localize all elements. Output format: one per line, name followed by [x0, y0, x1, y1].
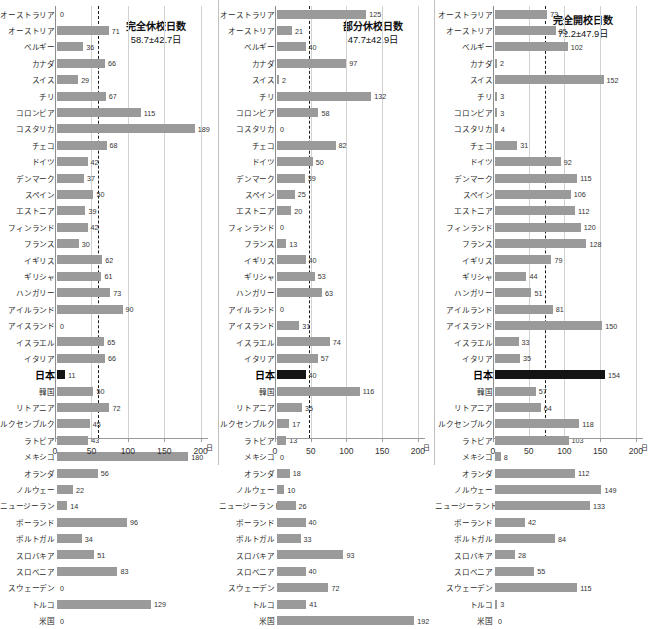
bar-track: 97 [277, 55, 434, 71]
bar-value-label: 34 [85, 535, 93, 544]
bar-track: 74 [277, 334, 434, 350]
bar-track: 58 [277, 104, 434, 120]
table-row: スロバキア93 [219, 547, 434, 563]
category-label: スペイン [435, 189, 495, 200]
bar-value-label: 58 [321, 109, 329, 118]
category-label: 韓国 [0, 386, 57, 397]
table-row: デンマーク115 [435, 170, 654, 186]
table-row: ベルギー40 [219, 39, 434, 55]
bar [57, 272, 101, 281]
bar-track: 92 [495, 154, 654, 170]
bar-value-label: 0 [280, 223, 284, 232]
bar-value-label: 97 [349, 59, 357, 68]
bar-value-label: 37 [87, 174, 95, 183]
category-label: オーストリア [0, 25, 57, 36]
bar-value-label: 72 [112, 404, 120, 413]
bar-value-label: 0 [280, 305, 284, 314]
x-axis-3: 050100150200日 [493, 438, 643, 465]
category-label: チェコ [0, 140, 57, 151]
panel-partial-closure: 部分休校日数 47.7±42.9日 オーストラリア125オーストリア21ベルギー… [218, 0, 434, 465]
table-row: イスラエル65 [0, 334, 218, 350]
bar-value-label: 150 [605, 322, 617, 331]
category-label: メキシコ [0, 451, 57, 462]
bar [277, 354, 318, 363]
category-label: カナダ [435, 58, 495, 69]
bar [277, 616, 414, 625]
category-label: オランダ [0, 468, 57, 479]
bar-track: 115 [495, 170, 654, 186]
bar-track: 106 [495, 186, 654, 202]
table-row: ハンガリー73 [0, 285, 218, 301]
bar-value-label: 14 [70, 502, 78, 511]
bar-value-label: 57 [539, 387, 547, 396]
x-tick-mark [418, 438, 419, 442]
table-row: イギリス62 [0, 252, 218, 268]
category-label: オーストリア [435, 25, 495, 36]
bar-value-label: 53 [318, 272, 326, 281]
table-row: 韓国57 [435, 383, 654, 399]
category-label: チリ [435, 91, 495, 102]
table-row: ルクセンブルク17 [219, 416, 434, 432]
table-row: 韓国116 [219, 383, 434, 399]
bar-track: 44 [495, 268, 654, 284]
table-row: ドイツ50 [219, 154, 434, 170]
bar-track: 33 [495, 334, 654, 350]
table-row: オランダ18 [219, 465, 434, 481]
bar-track: 62 [57, 252, 218, 268]
table-row: ベルギー102 [435, 39, 654, 55]
bar [277, 157, 313, 166]
category-label: スイス [0, 74, 57, 85]
category-label: エストニア [0, 205, 57, 216]
bar-track: 150 [495, 317, 654, 333]
bar [495, 600, 497, 609]
bar [495, 370, 605, 379]
table-row: イギリス40 [219, 252, 434, 268]
bar [495, 321, 602, 330]
bar [495, 288, 531, 297]
category-label: ドイツ [0, 156, 57, 167]
bar-value-label: 61 [104, 272, 112, 281]
bar [277, 10, 366, 19]
bar-track: 102 [495, 39, 654, 55]
category-label: 韓国 [219, 386, 277, 397]
category-label: トルコ [219, 599, 277, 610]
bar-track: 40 [277, 514, 434, 530]
table-row: エストニア39 [0, 203, 218, 219]
table-row: トルコ41 [219, 596, 434, 612]
table-row: スロベニア55 [435, 563, 654, 579]
bar-value-label: 106 [574, 190, 586, 199]
category-label: スイス [219, 74, 277, 85]
bar [57, 354, 105, 363]
table-row: アイルランド90 [0, 301, 218, 317]
bar-value-label: 125 [369, 10, 381, 19]
panel-full-open: 完全開校日数 72.2±47.9日 オーストラリア73オーストリア85ベルギー1… [434, 0, 654, 465]
bar-value-label: 39 [308, 174, 316, 183]
table-row: 日本154 [435, 367, 654, 383]
category-label: コロンビア [219, 107, 277, 118]
bar [57, 108, 141, 117]
bar-track: 40 [277, 39, 434, 55]
category-label: アイルランド [435, 304, 495, 315]
table-row: コスタリカ189 [0, 121, 218, 137]
x-axis-unit-label: 日 [423, 442, 430, 452]
bar-track: 125 [277, 6, 434, 22]
table-row: ルクセンブルク118 [435, 416, 654, 432]
bar-value-label: 0 [60, 617, 64, 626]
bar-value-label: 0 [280, 125, 284, 134]
category-label: ニュージーランド [0, 500, 57, 511]
bar-track: 112 [495, 203, 654, 219]
category-label: スウェーデン [435, 582, 495, 593]
bar-value-label: 154 [608, 371, 620, 380]
bar [57, 255, 102, 264]
category-label: スウェーデン [0, 582, 57, 593]
table-row: アイルランド0 [219, 301, 434, 317]
category-label: アイスランド [435, 320, 495, 331]
table-row: カナダ97 [219, 55, 434, 71]
x-tick-mark [382, 438, 383, 442]
bar-value-label: 50 [96, 387, 104, 396]
bar-value-label: 3 [500, 109, 504, 118]
bar [495, 239, 586, 248]
x-tick-mark [529, 438, 530, 442]
category-label: アイルランド [0, 304, 57, 315]
